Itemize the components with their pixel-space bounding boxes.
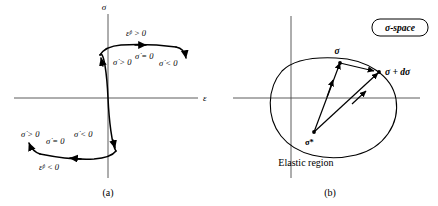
arrow-lower-flat [70,158,81,159]
vector-to-sigma [314,63,340,132]
caption-panel-a: (a) [102,187,113,199]
label-sigma-dot-zero-upper: σ̇ = 0 [135,51,154,61]
label-sigma-plus-dsigma: σ + dσ [385,67,411,77]
label-sigma-dot-negative-lower: σ̇ < 0 [74,129,93,139]
vector-sigma-increment [340,63,374,71]
hysteresis-lower-end-arrow [29,143,40,154]
label-sigma-star: σ* [305,137,314,147]
hysteresis-curve-lower-plateau [40,151,116,159]
point-sigma-star [312,130,316,134]
hysteresis-upper-end-arrow [176,47,186,58]
axis-label-sigma: σ [102,2,107,12]
label-sigma-dot-zero-lower: σ̇ = 0 [46,136,65,146]
label-sigma-dot-positive-lower: σ̇ > 0 [21,129,40,139]
label-sigma: σ [334,46,340,56]
label-sigma-dot-negative-upper: σ̇ < 0 [159,58,178,68]
vector-to-sigma-midarrow [327,80,333,97]
panel-b: σ σ + dσ σ* Elastic region σ-space (b) [233,16,428,199]
label-plastic-strain-negative: ε̇ᵖ < 0 [39,162,60,172]
panel-a: σ ε ε̇ᵖ > 0 σ̇ > 0 σ̇ = 0 σ̇ < 0 σ̇ > 0 … [14,2,207,199]
point-sigma [338,61,342,65]
point-sigma-plus-dsigma [377,70,381,74]
figure-container: σ ε ε̇ᵖ > 0 σ̇ > 0 σ̇ = 0 σ̇ < 0 σ̇ > 0 … [0,0,438,206]
vector-to-sigma-plus-dsigma-midarrow [352,91,366,104]
label-plastic-strain-positive: ε̇ᵖ > 0 [126,28,147,38]
sigma-space-badge-label: σ-space [385,23,416,33]
arrow-upper-rising [101,58,103,66]
label-elastic-region: Elastic region [278,157,333,168]
axis-label-epsilon: ε [203,93,207,103]
label-sigma-dot-positive-upper: σ̇ > 0 [113,57,132,67]
caption-panel-b: (b) [324,187,336,199]
figure-svg: σ ε ε̇ᵖ > 0 σ̇ > 0 σ̇ = 0 σ̇ < 0 σ̇ > 0 … [0,0,438,206]
vector-to-sigma-plus-dsigma [314,73,378,132]
